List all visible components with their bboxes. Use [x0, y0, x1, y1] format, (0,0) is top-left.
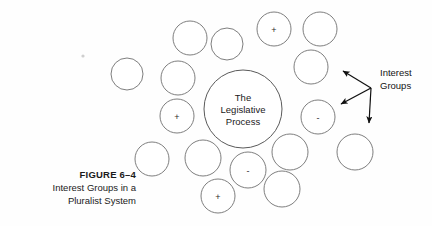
figure-title-line1: Interest Groups in a	[0, 181, 136, 194]
group-left-upper-circle	[161, 61, 195, 95]
group-left-plus: +	[160, 99, 194, 133]
group-far-right-lower-circle	[337, 134, 373, 170]
interest-groups-callout: Interest Groups	[341, 67, 412, 123]
group-bottom-left-b	[185, 140, 221, 176]
group-far-left	[111, 58, 143, 90]
core-label-line3: Process	[226, 116, 261, 127]
arrow-down	[369, 88, 371, 123]
group-bottom-plus-plus-label: +	[215, 192, 220, 202]
group-bottom-minus: -	[230, 152, 266, 188]
group-top-plus-plus-label: +	[271, 25, 276, 35]
arrow-down-left	[341, 88, 371, 104]
group-bottom-plus: +	[201, 179, 235, 213]
callout-label-line2: Groups	[380, 80, 411, 91]
group-right-upper-circle	[294, 50, 328, 84]
figure-number: FIGURE 6–4	[0, 168, 136, 181]
group-right-minus-minus-label: -	[317, 113, 320, 123]
arrow-up-left	[343, 71, 371, 88]
group-left-upper	[161, 61, 195, 95]
group-top-left-a-circle	[173, 21, 207, 55]
group-top-left-b	[211, 28, 243, 60]
group-bottom-center-right	[264, 171, 300, 207]
scan-speck	[81, 54, 84, 57]
group-right-upper	[294, 50, 328, 84]
callout-label-line1: Interest	[380, 67, 412, 78]
group-bottom-right-a	[272, 134, 308, 170]
group-top-right	[303, 12, 337, 46]
group-far-left-circle	[111, 58, 143, 90]
group-top-left-b-circle	[211, 28, 243, 60]
group-bottom-minus-minus-label: -	[247, 166, 250, 176]
group-bottom-center-right-circle	[264, 171, 300, 207]
group-right-minus: -	[301, 100, 335, 134]
core-label-line2: Legislative	[221, 104, 266, 115]
figure-title-line2: Pluralist System	[0, 194, 136, 207]
group-bottom-right-a-circle	[272, 134, 308, 170]
group-bottom-left-a	[135, 142, 169, 176]
group-left-plus-plus-label: +	[174, 112, 179, 122]
figure-container: ++--+ The Legislative Process Interest G…	[0, 0, 432, 226]
group-top-plus: +	[257, 12, 291, 46]
core-label-line1: The	[235, 92, 251, 103]
group-top-left-a	[173, 21, 207, 55]
group-far-right-lower	[337, 134, 373, 170]
legislative-process-node: The Legislative Process	[204, 70, 282, 148]
figure-caption: FIGURE 6–4 Interest Groups in a Pluralis…	[0, 168, 136, 207]
group-top-right-circle	[303, 12, 337, 46]
group-bottom-left-b-circle	[185, 140, 221, 176]
group-bottom-left-a-circle	[135, 142, 169, 176]
